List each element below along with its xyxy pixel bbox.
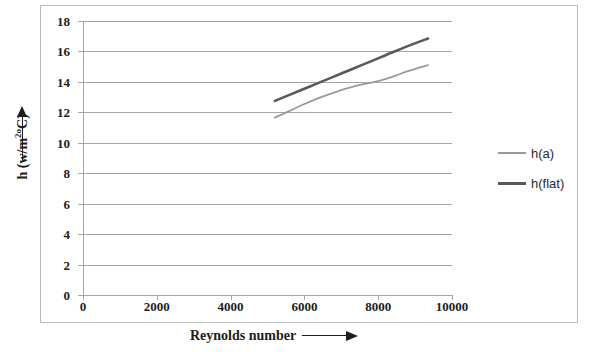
y-axis-title-superscript: 2o [13,129,23,138]
y-tick-label: 2 [40,259,70,272]
gridline [83,143,452,144]
gridlines [83,21,452,295]
y-tick-label: 18 [40,15,70,28]
y-tick-label: 12 [40,106,70,119]
y-tick-label: 10 [40,137,70,150]
x-tick-label: 4000 [201,300,261,313]
y-axis-title-suffix: C) [15,114,30,129]
gridline [83,265,452,266]
x-axis-arrow-icon [302,330,360,342]
y-tick-mark [78,204,83,205]
y-tick-label: 14 [40,76,70,89]
legend-swatch [498,152,526,154]
y-axis-title-group: h (w/m2oC) [4,60,38,240]
legend-label: h(flat) [531,176,564,191]
y-tick-mark [78,112,83,113]
x-tick-label: 0 [53,300,113,313]
y-tick-mark [78,51,83,52]
gridline [83,112,452,113]
y-axis-title-prefix: h (w/m [15,138,30,180]
legend-label: h(a) [531,146,554,161]
y-tick-mark [78,21,83,22]
y-axis-title: h (w/m2oC) [13,67,31,227]
y-tick-mark [78,173,83,174]
x-axis-title-group: Reynolds number [190,328,360,344]
chart-legend: h(a)h(flat) [498,138,576,198]
x-tick-label: 10000 [422,300,482,313]
y-tick-mark [78,265,83,266]
gridline [83,173,452,174]
x-tick-label: 2000 [127,300,187,313]
legend-swatch [498,182,526,185]
x-axis-title: Reynolds number [190,328,296,344]
y-tick-label: 4 [40,228,70,241]
x-tick-label: 6000 [274,300,334,313]
gridline [83,51,452,52]
gridline [83,204,452,205]
gridline [83,234,452,235]
y-tick-mark [78,82,83,83]
gridline [83,21,452,22]
gridline [83,82,452,83]
legend-item[interactable]: h(a) [498,138,576,168]
y-tick-label: 6 [40,198,70,211]
y-tick-label: 16 [40,45,70,58]
x-tick-label: 8000 [348,300,408,313]
legend-item[interactable]: h(flat) [498,168,576,198]
x-axis-line [83,295,453,296]
y-tick-mark [78,234,83,235]
y-tick-mark [78,143,83,144]
y-tick-label: 8 [40,167,70,180]
